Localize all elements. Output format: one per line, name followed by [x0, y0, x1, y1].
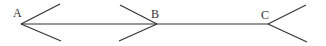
point-c-arm-lower	[268, 24, 307, 42]
point-b: B	[119, 5, 159, 41]
point-a: A	[13, 4, 61, 41]
point-b-arm-lower	[119, 24, 157, 41]
diagram-svg: A B C	[0, 0, 326, 46]
point-a-arm-upper	[21, 4, 60, 24]
point-b-label: B	[151, 7, 159, 21]
point-c-arm-upper	[268, 5, 306, 24]
point-a-label: A	[13, 6, 22, 20]
arrow-diagram: A B C	[0, 0, 326, 46]
point-c: C	[261, 5, 307, 42]
point-a-arm-lower	[21, 24, 61, 41]
point-c-label: C	[261, 8, 269, 22]
